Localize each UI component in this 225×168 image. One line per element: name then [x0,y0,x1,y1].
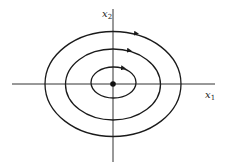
phase-portrait-diagram: x2 x1 [0,0,225,168]
x1-axis-label: x1 [205,89,215,102]
equilibrium-point [110,81,116,87]
x2-axis-label: x2 [102,8,112,21]
